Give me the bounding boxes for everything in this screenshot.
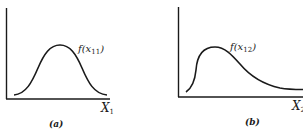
panel-b-axis-name: X xyxy=(292,99,301,113)
panel-a-axis-label: X1 xyxy=(101,102,114,116)
panel-a-fn-text: f(x xyxy=(78,43,91,54)
panel-a-caption: (a) xyxy=(49,120,63,129)
panel-b-curve-label: f(x12) xyxy=(230,42,256,54)
panel-b-fn-close: ) xyxy=(252,41,256,52)
panel-b-fn-text: f(x xyxy=(230,41,243,52)
panel-b-axis-subscript: 2 xyxy=(301,106,303,114)
panel-a-curve-label: f(x11) xyxy=(78,44,104,56)
panel-a-axis-name: X xyxy=(101,101,110,115)
panel-a-fn-close: ) xyxy=(100,43,104,54)
panel-b-caption: (b) xyxy=(245,118,260,127)
panel-a-axis-subscript: 1 xyxy=(110,108,114,116)
panel-b-axis-label: X2 xyxy=(292,100,303,114)
panel-a-fn-subscript: 11 xyxy=(91,48,100,56)
diagram-canvas xyxy=(0,0,303,132)
panel-b-fn-subscript: 12 xyxy=(243,46,252,54)
